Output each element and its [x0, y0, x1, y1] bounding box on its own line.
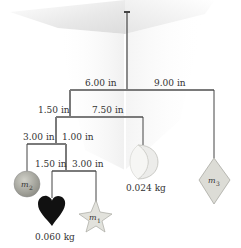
diamond-mass-m3: m 3	[199, 158, 230, 204]
star-mass-m1: m 1	[79, 200, 112, 232]
sphere-mass-label: m	[21, 180, 29, 189]
moon-mass: 0.024 kg	[126, 145, 166, 193]
top-rod-right-label: 9.00 in	[154, 78, 186, 88]
third-rod-right-label: 1.00 in	[62, 132, 94, 142]
third-rod-left-label: 3.00 in	[23, 132, 55, 142]
top-rod-left-label: 6.00 in	[85, 78, 117, 88]
star-mass-subscript: 1	[97, 217, 101, 224]
moon-mass-value: 0.024 kg	[126, 183, 166, 193]
fourth-rod-right-label: 3.00 in	[72, 159, 104, 169]
diamond-mass-subscript: 3	[216, 180, 220, 187]
heart-mass-value: 0.060 kg	[35, 232, 75, 242]
diamond-mass-label: m	[208, 176, 216, 185]
fourth-rod-left-label: 1.50 in	[35, 159, 67, 169]
sphere-mass-subscript: 2	[29, 184, 33, 191]
second-rod-left-label: 1.50 in	[38, 105, 70, 115]
second-rod-right-label: 7.50 in	[92, 105, 124, 115]
heart-mass: 0.060 kg	[35, 196, 75, 242]
diagram-canvas: 6.00 in 9.00 in 1.50 in 7.50 in 3.00 in …	[0, 0, 241, 248]
star-mass-label: m	[89, 213, 97, 222]
mobile-diagram: 6.00 in 9.00 in 1.50 in 7.50 in 3.00 in …	[0, 0, 241, 248]
sphere-mass-m2: m 2	[14, 171, 40, 197]
